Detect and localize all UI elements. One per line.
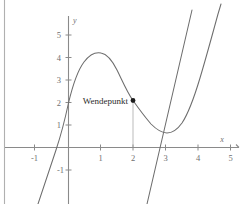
x-tick-label-1: 1 xyxy=(98,153,102,163)
x-tick-label--1: -1 xyxy=(31,153,38,163)
y-tick-label--1: -1 xyxy=(57,165,64,175)
y-tick-label-5: 5 xyxy=(57,30,61,40)
y-tick-label-2: 2 xyxy=(57,98,61,108)
plot-canvas: -1 1 2 3 4 5 5 4 3 2 1 -1 y x Wendepunkt xyxy=(0,0,245,204)
tangent-line xyxy=(147,10,192,204)
x-axis-name: x xyxy=(219,135,224,144)
graph-figure: -1 1 2 3 4 5 5 4 3 2 1 -1 y x Wendepunkt xyxy=(0,0,245,204)
y-axis-name: y xyxy=(72,16,77,25)
y-tick-label-3: 3 xyxy=(57,75,61,85)
x-tick-label-5: 5 xyxy=(228,153,232,163)
wendepunkt-marker[interactable] xyxy=(131,98,136,103)
x-tick-label-2: 2 xyxy=(131,153,135,163)
x-tick-label-3: 3 xyxy=(163,153,167,163)
y-tick-label-1: 1 xyxy=(57,120,61,130)
cubic-curve xyxy=(38,4,221,204)
y-tick-label-4: 4 xyxy=(57,53,62,63)
wendepunkt-label: Wendepunkt xyxy=(83,96,129,106)
x-tick-label-4: 4 xyxy=(196,153,201,163)
